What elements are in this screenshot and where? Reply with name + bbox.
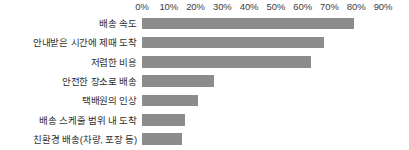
bar — [142, 75, 214, 87]
category-label: 배송 스케줄 범위 내 도착 — [39, 111, 137, 130]
category-label: 택배원의 인상 — [82, 91, 137, 110]
bar-row: 저렴한 비용 — [0, 53, 409, 72]
bar-row: 배송 스케줄 범위 내 도착 — [0, 111, 409, 130]
x-axis-tick-30: 30% — [213, 0, 232, 13]
x-axis-tick-40: 40% — [240, 0, 259, 13]
category-label: 배송 속도 — [99, 14, 137, 33]
category-label: 안전한 장소로 배송 — [62, 72, 137, 91]
bar — [142, 95, 198, 107]
bar — [142, 133, 182, 145]
bar — [142, 114, 185, 126]
x-axis-tick-10: 10% — [159, 0, 178, 13]
horizontal-bar-chart: 0%10%20%30%40%50%60%70%80%90% 배송 속도안내받은 … — [0, 0, 409, 150]
category-label: 친환경 배송(차량, 포장 등) — [33, 130, 137, 149]
bar — [142, 37, 324, 49]
category-label: 안내받은 시간에 제때 도착 — [33, 33, 137, 52]
x-axis-tick-50: 50% — [267, 0, 286, 13]
bar-row: 택배원의 인상 — [0, 91, 409, 110]
x-axis-tick-labels: 0%10%20%30%40%50%60%70%80%90% — [0, 0, 409, 14]
bar-row: 안내받은 시간에 제때 도착 — [0, 33, 409, 52]
x-axis-tick-80: 80% — [347, 0, 366, 13]
bar-row: 친환경 배송(차량, 포장 등) — [0, 130, 409, 149]
x-axis-tick-0: 0% — [135, 0, 149, 13]
x-axis-tick-90: 90% — [374, 0, 393, 13]
bar-row: 배송 속도 — [0, 14, 409, 33]
category-label: 저렴한 비용 — [91, 53, 137, 72]
x-axis-tick-60: 60% — [293, 0, 312, 13]
bar-row: 안전한 장소로 배송 — [0, 72, 409, 91]
x-axis-tick-20: 20% — [186, 0, 205, 13]
x-axis-tick-70: 70% — [320, 0, 339, 13]
bar — [142, 18, 354, 30]
plot-area: 배송 속도안내받은 시간에 제때 도착저렴한 비용안전한 장소로 배송택배원의 … — [0, 14, 409, 150]
bar — [142, 56, 311, 68]
